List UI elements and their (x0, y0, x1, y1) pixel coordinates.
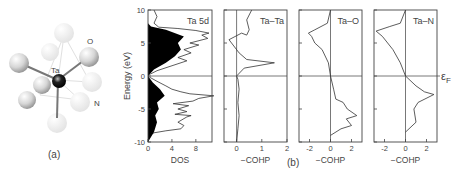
panel-a-label: (a) (48, 149, 60, 160)
x-tick-label: 0 (235, 144, 239, 153)
fermi-level-label: εF (441, 70, 451, 85)
x-tick-label: 0 (328, 144, 332, 153)
panel-b-charts: Ta 5d048DOS1050-5-10Ta–Ta012−COHPTa–O-20… (134, 6, 440, 165)
chart-3: Ta–N-202−COHP (374, 10, 440, 165)
atom-back-top (54, 23, 74, 43)
series-line (308, 10, 356, 135)
label-N: N (94, 99, 100, 108)
atom-back-left (41, 43, 59, 61)
x-tick-label: 2 (349, 144, 353, 153)
x-tick-label: -2 (381, 144, 388, 153)
x-axis-label: −COHP (391, 155, 421, 165)
atom-left-mid (33, 76, 51, 94)
atom-left-front (9, 53, 29, 73)
x-axis-label: −COHP (241, 155, 271, 165)
y-tick-label: 0 (141, 72, 145, 81)
x-tick-label: 0 (146, 144, 150, 153)
x-tick-label: 2 (424, 144, 428, 153)
y-tick-label: -5 (138, 105, 145, 114)
chart-1: Ta–Ta012−COHP (224, 10, 289, 165)
chart-title: Ta–Ta (260, 16, 284, 26)
atom-left-lower (18, 91, 36, 109)
series-line (376, 10, 434, 132)
x-tick-label: 4 (170, 144, 174, 153)
y-tick-label: -10 (134, 138, 145, 147)
y-tick-label: 10 (137, 6, 145, 15)
x-tick-label: 0 (403, 144, 407, 153)
chart-title: Ta–N (413, 16, 434, 26)
chart-2: Ta–O-202−COHP (299, 10, 362, 165)
atom-back-bottom-right (70, 92, 90, 112)
y-tick-label: 5 (141, 39, 145, 48)
x-tick-label: 2 (285, 144, 289, 153)
atom-O (79, 47, 99, 67)
label-Ta: Ta (51, 66, 60, 75)
chart-title: Ta–O (337, 16, 359, 26)
atom-Ta (52, 74, 66, 88)
chart-title: Ta 5d (187, 16, 209, 26)
x-axis-label: −COHP (316, 155, 346, 165)
y-axis-label: Energy (eV) (122, 52, 132, 100)
atom-N-right (82, 72, 102, 92)
x-tick-label: -2 (306, 144, 313, 153)
x-axis-label: DOS (171, 155, 190, 165)
chart-0: Ta 5d048DOS1050-5-10 (134, 6, 214, 165)
x-tick-label: 8 (194, 144, 198, 153)
ta5d-fill (148, 23, 184, 142)
figure-canvas: Ta O N (a) Ta 5d048DOS1050-5-10Ta–Ta012−… (0, 0, 460, 176)
panel-b-label: (b) (287, 157, 299, 168)
panel-a-structure: Ta O N (a) (9, 23, 102, 160)
label-O: O (87, 37, 93, 46)
x-tick-label: 1 (260, 144, 264, 153)
